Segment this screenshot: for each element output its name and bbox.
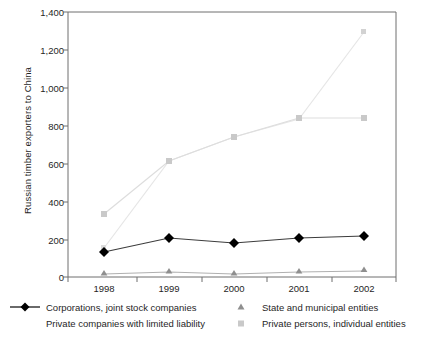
plot-area (0, 0, 432, 337)
data-point (101, 211, 107, 217)
data-point (229, 238, 239, 248)
chart-legend: Corporations, joint stock companies Priv… (0, 297, 432, 337)
data-point (231, 270, 238, 276)
data-point (361, 267, 368, 273)
legend-marker-blank-icon (8, 317, 42, 329)
legend-label-corporations: Corporations, joint stock companies (46, 302, 197, 313)
legend-marker-triangle-icon (224, 301, 258, 313)
data-point (361, 29, 366, 34)
legend-label-private-persons: Private persons, individual entities (262, 318, 406, 329)
legend-label-private-companies: Private companies with limited liability (46, 318, 205, 329)
x-axis-ticks (68, 277, 396, 282)
data-point (231, 134, 237, 140)
data-point (99, 247, 109, 257)
data-point (361, 115, 367, 121)
data-point (166, 268, 173, 274)
chart-container: Russian timber exporters to China 1,400 … (0, 0, 432, 337)
data-point (164, 233, 174, 243)
series-state-municipal-entities (101, 267, 368, 276)
data-point (101, 270, 108, 276)
data-point (294, 233, 304, 243)
series-private-persons-individual-entities (101, 115, 367, 217)
series-corporations-joint-stock-companies (99, 231, 369, 257)
legend-marker-diamond-line-icon (8, 301, 42, 313)
legend-marker-square-icon (224, 317, 258, 329)
data-point (166, 158, 172, 164)
data-point (296, 115, 302, 121)
data-point (296, 268, 303, 274)
data-point (359, 231, 369, 241)
legend-label-state-municipal: State and municipal entities (262, 302, 378, 313)
y-axis-ticks (63, 12, 68, 277)
